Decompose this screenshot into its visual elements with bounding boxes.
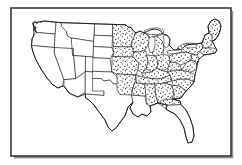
us-map-svg (0, 0, 242, 165)
state-oregon (32, 33, 56, 48)
map-figure: Map of the contiguous United States Blac… (0, 0, 242, 165)
state-kansas (93, 58, 112, 72)
state-south-dakota (94, 35, 113, 47)
state-iowa (113, 47, 135, 58)
state-wyoming (72, 38, 95, 57)
state-north-dakota (94, 24, 113, 36)
state-nebraska (93, 47, 113, 59)
